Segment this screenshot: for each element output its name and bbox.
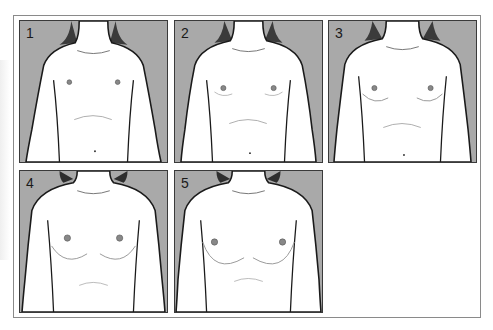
panel-number: 4 <box>26 175 34 191</box>
panel-stage-1: 1 <box>19 20 168 163</box>
torso-illustration <box>20 171 167 312</box>
panel-number: 1 <box>26 25 34 41</box>
panel-stage-2: 2 <box>174 20 323 163</box>
panel-number: 3 <box>335 25 343 41</box>
panel-stage-5: 5 <box>174 170 323 313</box>
panel-stage-3: 3 <box>328 20 477 163</box>
panel-number: 2 <box>181 25 189 41</box>
page-edge-shadow <box>0 60 10 260</box>
panel-stage-4: 4 <box>19 170 168 313</box>
torso-illustration <box>329 21 476 162</box>
torso-illustration <box>20 21 167 162</box>
torso-illustration <box>175 21 322 162</box>
torso-illustration <box>175 171 322 312</box>
panel-number: 5 <box>181 175 189 191</box>
